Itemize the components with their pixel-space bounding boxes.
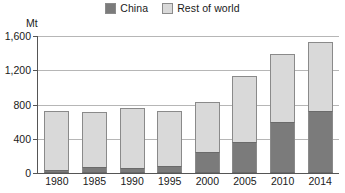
x-axis-tick-label: 2014	[304, 176, 337, 187]
y-axis-unit-label: Mt	[26, 18, 38, 29]
bar-chart: China Rest of world Mt 04008001,2001,600…	[0, 0, 345, 193]
bar-segment-rest-of-world[interactable]	[157, 111, 182, 166]
plot-area: 04008001,2001,600	[37, 36, 339, 174]
legend-label-rest-of-world: Rest of world	[177, 3, 240, 14]
x-axis-line	[37, 173, 339, 174]
y-axis-tick	[33, 70, 37, 71]
bar-segment-china[interactable]	[195, 152, 220, 173]
legend-item-china: China	[105, 3, 148, 14]
bar-group[interactable]	[82, 112, 107, 173]
legend-swatch-china	[105, 3, 116, 14]
bar-series-layer	[38, 36, 339, 173]
x-axis-tick-label: 1985	[78, 176, 111, 187]
bar-group[interactable]	[195, 102, 220, 173]
x-axis-tick-label: 1980	[40, 176, 73, 187]
y-axis-tick-label: 1,600	[5, 31, 31, 42]
bar-group[interactable]	[120, 108, 145, 173]
x-axis-labels: 19801985199019952000200520102014	[38, 176, 339, 187]
bar-group[interactable]	[44, 111, 69, 173]
bar-segment-rest-of-world[interactable]	[44, 111, 69, 169]
x-axis-tick-label: 2010	[266, 176, 299, 187]
y-axis-tick-label: 800	[13, 99, 31, 110]
bar-segment-china[interactable]	[232, 142, 257, 173]
bar-group[interactable]	[232, 76, 257, 173]
bar-group[interactable]	[270, 54, 295, 173]
x-axis-tick-label: 1995	[153, 176, 186, 187]
x-axis-tick-label: 1990	[116, 176, 149, 187]
bar-group[interactable]	[308, 42, 333, 173]
y-axis-tick-label: 1,200	[5, 65, 31, 76]
y-axis-tick	[33, 139, 37, 140]
legend-swatch-rest-of-world	[162, 3, 173, 14]
x-axis-tick-label: 2000	[191, 176, 224, 187]
bar-segment-rest-of-world[interactable]	[270, 54, 295, 122]
bar-group[interactable]	[157, 111, 182, 173]
bar-segment-rest-of-world[interactable]	[308, 42, 333, 111]
bar-segment-china[interactable]	[308, 111, 333, 173]
bar-segment-china[interactable]	[270, 122, 295, 173]
y-axis-tick	[33, 105, 37, 106]
bar-segment-rest-of-world[interactable]	[82, 112, 107, 167]
x-axis-tick-label: 2005	[228, 176, 261, 187]
y-axis-tick	[33, 36, 37, 37]
bar-segment-china[interactable]	[157, 166, 182, 173]
bar-segment-rest-of-world[interactable]	[120, 108, 145, 168]
bar-segment-china[interactable]	[120, 168, 145, 173]
legend-item-rest-of-world: Rest of world	[162, 3, 240, 14]
bar-segment-rest-of-world[interactable]	[195, 102, 220, 152]
legend-label-china: China	[120, 3, 148, 14]
bar-segment-china[interactable]	[44, 170, 69, 173]
y-axis-tick	[33, 173, 37, 174]
y-axis-tick-label: 0	[25, 168, 31, 179]
y-axis-tick-label: 400	[13, 134, 31, 145]
bar-segment-rest-of-world[interactable]	[232, 76, 257, 142]
chart-legend: China Rest of world	[0, 3, 345, 14]
bar-segment-china[interactable]	[82, 167, 107, 173]
